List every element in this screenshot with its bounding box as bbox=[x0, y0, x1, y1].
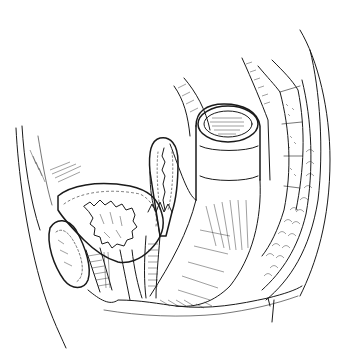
anatomical-illustration bbox=[0, 0, 338, 361]
perineum bbox=[88, 286, 302, 322]
presacral-fat bbox=[262, 50, 321, 300]
pelvis-sagittal-drawing bbox=[0, 0, 338, 361]
rectum bbox=[150, 58, 270, 306]
pubic-symphysis bbox=[49, 221, 89, 288]
bladder bbox=[58, 184, 163, 263]
buttock-contour bbox=[300, 30, 330, 296]
sacrum bbox=[258, 60, 303, 256]
